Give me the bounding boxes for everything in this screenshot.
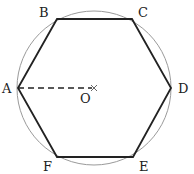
vertex-label-e: E: [139, 159, 149, 174]
vertex-label-b: B: [39, 5, 49, 20]
vertex-label-d: D: [178, 81, 188, 96]
vertex-label-c: C: [138, 5, 148, 20]
vertex-label-f: F: [43, 159, 52, 174]
hexagon-diagram: A B C D E F O: [0, 0, 194, 174]
vertex-label-a: A: [1, 81, 12, 96]
center-label-o: O: [80, 91, 91, 106]
